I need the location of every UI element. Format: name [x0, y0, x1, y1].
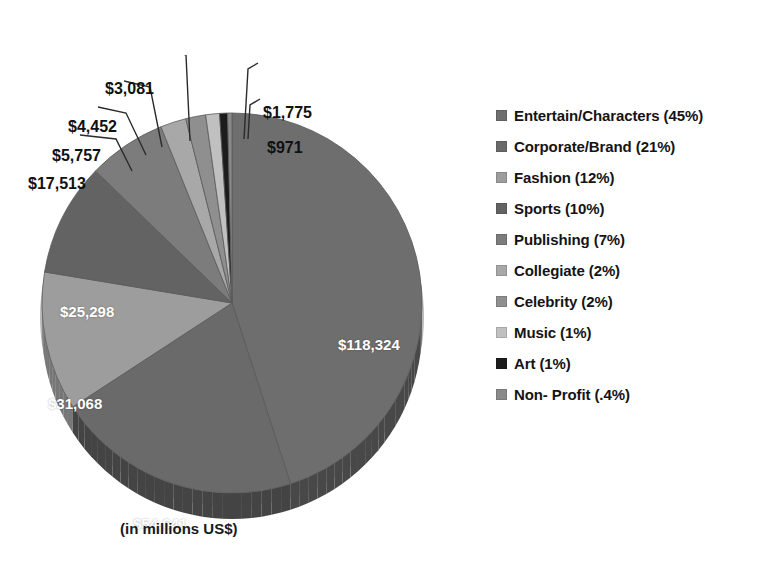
legend-item[interactable]: Corporate/Brand (21%)	[496, 131, 776, 162]
callout-value-label: $971	[267, 139, 303, 157]
callout-value-label: $3,081	[105, 80, 154, 98]
legend-item[interactable]: Publishing (7%)	[496, 224, 776, 255]
legend-swatch-icon	[496, 141, 507, 152]
callout-value-label: $5,757	[52, 147, 101, 165]
legend-item-label: Entertain/Characters (45%)	[514, 107, 703, 124]
legend-item-label: Music (1%)	[514, 324, 591, 341]
pie-slice-depth	[291, 480, 300, 509]
legend-swatch-icon	[496, 389, 507, 400]
pie-slice-depth	[193, 489, 203, 517]
legend-item[interactable]: Non- Profit (.4%)	[496, 379, 776, 410]
legend-item-label: Collegiate (2%)	[514, 262, 620, 279]
legend-item[interactable]: Sports (10%)	[496, 193, 776, 224]
pie-slice-depth	[183, 487, 193, 515]
legend-item-label: Art (1%)	[514, 355, 571, 372]
slice-value-label: $25,298	[60, 303, 114, 320]
legend-item[interactable]: Fashion (12%)	[496, 162, 776, 193]
pie-slice-depth	[252, 491, 262, 518]
pie-slice-depth	[242, 492, 252, 519]
legend-item-label: Fashion (12%)	[514, 169, 614, 186]
legend-item[interactable]: Entertain/Characters (45%)	[496, 100, 776, 131]
pie-slice-depth	[173, 484, 183, 513]
pie-chart: $118,324$54,641$31,068$25,298 $17,513$5,…	[20, 55, 490, 535]
legend-swatch-icon	[496, 110, 507, 121]
legend-item[interactable]: Music (1%)	[496, 317, 776, 348]
legend-swatch-icon	[496, 358, 507, 369]
pie-slice-depth	[318, 468, 327, 499]
legend-swatch-icon	[496, 296, 507, 307]
slice-value-label: $31,068	[48, 395, 102, 412]
legend-swatch-icon	[496, 234, 507, 245]
pie-slice-depth	[222, 493, 232, 519]
pie-slice-depth	[300, 477, 309, 507]
legend-swatch-icon	[496, 203, 507, 214]
pie-slice-depth	[137, 468, 146, 499]
pie-slice-depth	[232, 493, 242, 519]
chart-title	[258, 0, 778, 6]
legend-swatch-icon	[496, 172, 507, 183]
legend-swatch-icon	[496, 327, 507, 338]
pie-slice-depth	[281, 484, 291, 513]
pie-slice-depth	[271, 487, 281, 515]
pie-slice-depth	[262, 489, 272, 517]
pie-slice-depth	[212, 492, 222, 519]
legend-item-label: Sports (10%)	[514, 200, 605, 217]
legend-item-label: Celebrity (2%)	[514, 293, 613, 310]
legend-item-label: Non- Profit (.4%)	[514, 386, 630, 403]
callout-value-label: $17,513	[28, 175, 86, 193]
pie-slice-depth	[155, 477, 164, 507]
callout-value-label: $1,775	[263, 104, 312, 122]
legend-item-label: Publishing (7%)	[514, 231, 625, 248]
pie-slice-depth	[202, 491, 212, 518]
callout-value-label: $4,452	[68, 118, 117, 136]
legend-item[interactable]: Collegiate (2%)	[496, 255, 776, 286]
slice-value-label: $118,324	[338, 336, 400, 353]
pie-slice-depth	[146, 472, 155, 502]
legend-item-label: Corporate/Brand (21%)	[514, 138, 675, 155]
chart-legend: Entertain/Characters (45%)Corporate/Bran…	[496, 100, 776, 410]
legend-item[interactable]: Celebrity (2%)	[496, 286, 776, 317]
chart-caption: (in millions US$)	[120, 520, 238, 537]
pie-slice-depth	[164, 480, 173, 509]
legend-item[interactable]: Art (1%)	[496, 348, 776, 379]
legend-swatch-icon	[496, 265, 507, 276]
chart-figure: $118,324$54,641$31,068$25,298 $17,513$5,…	[0, 0, 783, 582]
pie-slice-depth	[309, 473, 318, 503]
